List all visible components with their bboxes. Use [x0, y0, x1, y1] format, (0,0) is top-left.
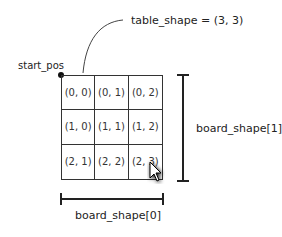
table-shape-leader	[83, 20, 123, 73]
board-shape-1-label: board_shape[1]	[196, 123, 282, 134]
start-pos-label: start_pos	[18, 61, 64, 71]
board-shape-0-bracket	[61, 193, 163, 205]
mouse-pointer-icon	[147, 160, 165, 184]
board-shape-1-bracket	[177, 75, 189, 181]
grid-cell: (2, 2)	[95, 145, 128, 179]
grid-cell: (0, 2)	[129, 76, 162, 110]
grid-cell: (0, 0)	[62, 76, 95, 110]
grid-cell: (1, 1)	[95, 110, 128, 144]
grid-cell: (2, 1)	[62, 145, 95, 179]
board-shape-0-label: board_shape[0]	[75, 210, 161, 221]
grid-cell: (0, 1)	[95, 76, 128, 110]
grid-cell: (1, 2)	[129, 110, 162, 144]
table-shape-label: table_shape = (3, 3)	[131, 15, 243, 26]
grid-cell: (1, 0)	[62, 110, 95, 144]
